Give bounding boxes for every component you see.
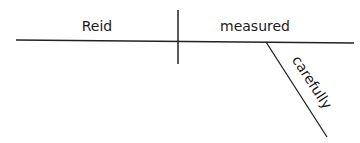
subject-word: Reid <box>82 18 113 34</box>
baseline <box>16 40 354 43</box>
sentence-diagram: Reid measured carefully <box>0 0 360 143</box>
verb-word: measured <box>220 18 290 34</box>
modifier-word: carefully <box>289 53 335 112</box>
diagram-svg: Reid measured carefully <box>0 0 360 143</box>
